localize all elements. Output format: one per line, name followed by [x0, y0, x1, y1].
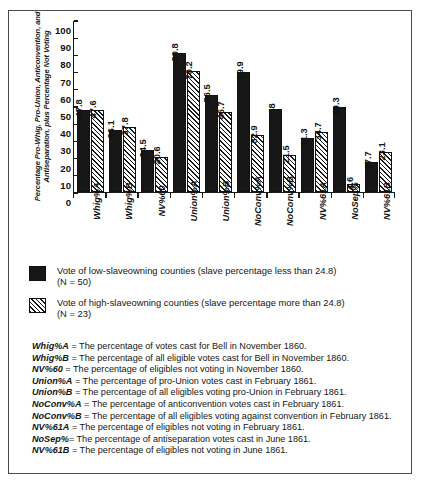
x-axis-category-label: NoConv%A	[254, 176, 263, 226]
y-tick-mark	[74, 38, 78, 39]
bar[interactable]: 47.8	[77, 110, 90, 192]
x-label-slot: Union%B	[202, 199, 234, 255]
bar-value-label: 80.8	[170, 43, 179, 61]
footnote-key: NoSep%	[32, 434, 69, 444]
bar-group: 49.34.6	[331, 21, 363, 192]
bar-group: 56.546.7	[202, 21, 234, 192]
y-tick-label: 40	[45, 129, 71, 139]
bar-group: 31.334.7	[299, 21, 331, 192]
bar-wrapper: 46.7	[219, 21, 232, 192]
footnote-key: NV%61A	[32, 422, 69, 432]
bar-value-label: 23.1	[376, 142, 385, 160]
bar-wrapper: 70.2	[187, 21, 200, 192]
bar-value-label: 47.6	[88, 100, 97, 118]
y-tick-label: 50	[45, 112, 71, 122]
bar-value-label: 36.1	[106, 120, 115, 138]
bar-value-label: 21.5	[280, 145, 289, 163]
y-tick-label: 20	[45, 164, 71, 174]
y-tick-mark	[74, 124, 78, 125]
bar-wrapper: 80.8	[173, 21, 186, 192]
bar-value-label: 32.9	[248, 125, 257, 143]
bar-value-label: 20.6	[152, 146, 161, 164]
bar[interactable]: 70.2	[187, 71, 200, 192]
bar-group: 36.137.8	[106, 21, 138, 192]
bar-value-label: 31.3	[298, 128, 307, 146]
bar-value-label: 56.5	[202, 85, 211, 103]
legend-label: Vote of low-slaveowning counties (slave …	[57, 265, 336, 288]
bar[interactable]: 36.1	[109, 130, 122, 192]
y-tick-mark	[74, 20, 78, 21]
y-tick-label: 0	[45, 198, 71, 208]
bar[interactable]: 31.3	[301, 138, 314, 192]
footnote-key: Union%A	[32, 376, 72, 386]
footnote-definition: = The percentage of eligibles not voting…	[63, 364, 304, 374]
bar-wrapper: 23.1	[379, 21, 392, 192]
footnote-definition: = The percentage of anticonvention votes…	[82, 399, 344, 409]
x-label-slot: NoConv%A	[234, 199, 266, 255]
y-tick-label: 80	[45, 61, 71, 71]
bar-value-label: 48	[266, 103, 275, 113]
footnote-definition: = The percentage of all eligible votes c…	[69, 353, 349, 363]
footnote-definition: = The percentage of eligibles not voting…	[69, 445, 288, 455]
footnote-key: NoConv%A	[32, 399, 82, 409]
footnote-key: Whig%B	[32, 353, 69, 363]
x-axis-category-label: NoConv%B	[286, 176, 295, 226]
x-axis-category-label: NoSep%	[351, 182, 360, 219]
x-label-slot: Whig%A	[73, 199, 105, 255]
x-axis-category-label: NV%61A	[319, 182, 328, 220]
legend-swatch-solid	[29, 266, 46, 281]
x-axis-category-label: NV%61B	[383, 182, 392, 220]
x-tick-mark	[73, 193, 74, 198]
bar-wrapper: 48	[269, 21, 282, 192]
footnote-key: Whig%A	[32, 341, 69, 351]
x-axis-category-label: Union%A	[190, 181, 199, 222]
footnote-line: Whig%B = The percentage of all eligible …	[32, 353, 404, 365]
footnote-line: Whig%A = The percentage of votes cast fo…	[32, 341, 404, 353]
legend-sample-size: (N = 23)	[57, 308, 345, 319]
x-axis-tick-labels: Whig%AWhig%BNV%60Union%AUnion%BNoConv%AN…	[73, 199, 395, 255]
bar-wrapper: 36.1	[109, 21, 122, 192]
bar-chart: Percentage Pro-Whig, Pro-Union, Anticonv…	[9, 11, 413, 256]
y-tick-mark	[74, 158, 78, 159]
x-tick-mark	[170, 193, 171, 198]
figure-frame: Percentage Pro-Whig, Pro-Union, Anticonv…	[8, 10, 412, 474]
bar-wrapper: 34.7	[315, 21, 328, 192]
legend: Vote of low-slaveowning counties (slave …	[29, 265, 399, 329]
bar-wrapper: 49.3	[333, 21, 346, 192]
bar-value-label: 49.3	[330, 97, 339, 115]
footnote-line: NV%60 = The percentage of eligibles not …	[32, 364, 404, 376]
bar-wrapper: 37.8	[123, 21, 136, 192]
legend-label-text: Vote of high-slaveowning counties (slave…	[57, 297, 345, 308]
x-axis-category-label: NV%60	[158, 185, 167, 216]
bar-group: 4821.5	[267, 21, 299, 192]
x-tick-mark	[202, 193, 203, 198]
x-label-slot: NoSep%	[331, 199, 363, 255]
y-tick-label: 100	[45, 26, 71, 36]
y-tick-label: 70	[45, 78, 71, 88]
x-label-slot: Whig%B	[105, 199, 137, 255]
bar[interactable]: 47.6	[91, 110, 104, 192]
footnote-key: NV%61B	[32, 445, 69, 455]
x-tick-mark	[266, 193, 267, 198]
bar-group: 17.723.1	[363, 21, 395, 192]
y-tick-mark	[74, 141, 78, 142]
legend-item: Vote of high-slaveowning counties (slave…	[29, 297, 399, 320]
footnote-definition: = The percentage of votes cast for Bell …	[69, 341, 307, 351]
bar-wrapper: 20.6	[155, 21, 168, 192]
footnote-definition: = The percentage of eligibles not voting…	[69, 422, 304, 432]
footnote-line: NV%61A = The percentage of eligibles not…	[32, 422, 404, 434]
bar-wrapper: 21.5	[283, 21, 296, 192]
bar-wrapper: 17.7	[365, 21, 378, 192]
footnote-definition: = The percentage of pro-Union votes cast…	[72, 376, 316, 386]
bar-wrapper: 69.9	[237, 21, 250, 192]
x-axis-category-label: Union%B	[222, 181, 231, 222]
bar-value-label: 70.2	[184, 61, 193, 79]
x-axis-category-label: Whig%B	[125, 182, 134, 219]
x-label-slot: NV%61A	[298, 199, 330, 255]
footnote-line: Union%A = The percentage of pro-Union vo…	[32, 376, 404, 388]
x-label-slot: NV%60	[137, 199, 169, 255]
bar[interactable]: 17.7	[365, 162, 378, 192]
y-tick-mark	[74, 89, 78, 90]
bars-layer: 47.847.636.137.824.520.680.870.256.546.7…	[74, 21, 395, 192]
footnote-definition: = The percentage of antiseparation votes…	[69, 434, 311, 444]
